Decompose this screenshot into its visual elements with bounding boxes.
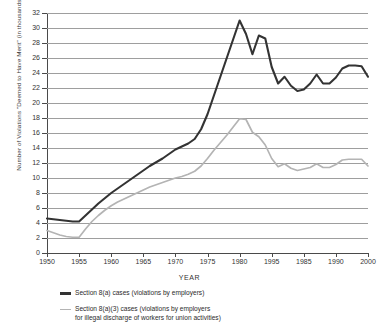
x-axis-label: 1955 bbox=[71, 258, 87, 265]
x-axis-label: 1975 bbox=[200, 258, 216, 265]
y-axis-label: 22 bbox=[22, 84, 40, 91]
x-axis-title: YEAR bbox=[0, 274, 379, 281]
x-axis-label: 1980 bbox=[232, 258, 248, 265]
x-axis-label: 1985 bbox=[296, 258, 312, 265]
x-axis-label: 1965 bbox=[136, 258, 152, 265]
series-line-section-8a bbox=[47, 21, 368, 222]
x-axis-label: 1960 bbox=[103, 258, 119, 265]
x-axis-label: 1995 bbox=[264, 258, 280, 265]
chart-legend: Section 8(a) cases (violations by employ… bbox=[60, 288, 370, 329]
y-axis-label: 14 bbox=[22, 144, 40, 151]
y-axis-label: 16 bbox=[22, 129, 40, 136]
x-axis-label: 2000 bbox=[360, 258, 376, 265]
series-line-section-8a3 bbox=[47, 119, 368, 238]
y-axis-label: 2 bbox=[22, 234, 40, 241]
series-plot bbox=[47, 13, 368, 254]
y-axis-label: 4 bbox=[22, 219, 40, 226]
y-axis-label: 26 bbox=[22, 54, 40, 61]
y-axis-label: 6 bbox=[22, 204, 40, 211]
legend-item-section-8a3: Section 8(a)(3) cases (violations by emp… bbox=[60, 304, 370, 322]
y-axis-label: 20 bbox=[22, 99, 40, 106]
y-axis-label: 10 bbox=[22, 174, 40, 181]
y-axis-label: 32 bbox=[22, 9, 40, 16]
y-axis-label: 24 bbox=[22, 69, 40, 76]
chart-container: Number of Violations "Deemed to Have Mer… bbox=[0, 0, 379, 334]
x-axis-label: 1970 bbox=[168, 258, 184, 265]
legend-label-section-8a: Section 8(a) cases (violations by employ… bbox=[75, 288, 204, 297]
y-axis-label: 18 bbox=[22, 114, 40, 121]
y-axis-label: 0 bbox=[22, 249, 40, 256]
x-axis-label: 1990 bbox=[328, 258, 344, 265]
x-axis-tick bbox=[368, 253, 369, 257]
legend-item-section-8a: Section 8(a) cases (violations by employ… bbox=[60, 288, 370, 297]
legend-swatch-icon-dark bbox=[60, 292, 71, 295]
y-axis-label: 12 bbox=[22, 159, 40, 166]
x-axis-label: 1950 bbox=[39, 258, 55, 265]
y-axis-label: 8 bbox=[22, 189, 40, 196]
y-axis-label: 30 bbox=[22, 24, 40, 31]
legend-label-section-8a3: Section 8(a)(3) cases (violations by emp… bbox=[75, 304, 221, 322]
legend-swatch-icon-gray bbox=[60, 309, 71, 311]
y-axis-label: 28 bbox=[22, 39, 40, 46]
